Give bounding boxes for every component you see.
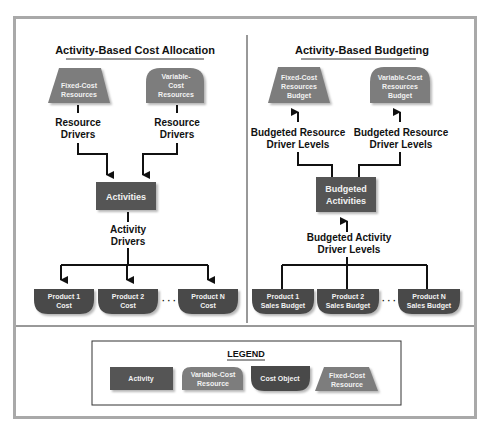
ellipsis: · · · (382, 296, 396, 306)
activity-drivers-label: Activity (110, 224, 147, 235)
legend-label: Fixed-Cost (329, 372, 366, 379)
node-label-line: Sales Budget (326, 302, 371, 310)
legend-item-variable-cost-resource: Variable-Cost Resource (182, 367, 243, 390)
product-1-sales-budget-node: Product 1 Sales Budget (252, 289, 314, 314)
node-label-line: Budget (287, 92, 312, 100)
node-label-line: Activities (326, 196, 366, 206)
budgeted-resource-driver-levels-left: Driver Levels (267, 139, 330, 150)
node-label-line: Product 2 (112, 293, 144, 300)
node-label-line: Budgeted (325, 184, 367, 194)
activities-node: Activities (96, 182, 156, 210)
budgeted-resource-driver-levels-right: Budgeted Resource (354, 127, 449, 138)
budgeted-resource-driver-levels-right: Driver Levels (370, 139, 433, 150)
legend-title: LEGEND (227, 349, 265, 359)
fixed-cost-resources-node: Fixed-Cost Resources (48, 68, 110, 103)
legend-label: Cost Object (260, 375, 300, 383)
variable-cost-resources-node: Variable- Cost Resources (146, 68, 204, 103)
product-n-cost-node: Product N Cost (178, 289, 238, 314)
legend-label: Resource (331, 381, 363, 388)
node-label-line: Cost (168, 82, 184, 89)
node-label-line: Cost (200, 302, 216, 309)
diagram-canvas: Activity-Based Cost Allocation Fixed-Cos… (0, 0, 496, 431)
node-label-line: Resources (61, 91, 97, 98)
node-label-line: Fixed-Cost (281, 74, 318, 81)
right-panel: Activity-Based Budgeting Fixed-Cost Reso… (251, 44, 460, 314)
arrow-to-activities (78, 143, 107, 175)
activity-drivers-label: Drivers (111, 236, 146, 247)
variable-cost-resources-budget-node: Variable-Cost Resources Budget (370, 67, 430, 103)
resource-drivers-label-left: Resource (55, 117, 101, 128)
node-label-line: Resources (382, 83, 418, 90)
node-label-line: Product N (412, 293, 445, 300)
node-label-line: Product 2 (332, 293, 364, 300)
product-1-cost-node: Product 1 Cost (34, 289, 94, 314)
node-label-line: Variable- (161, 73, 191, 80)
node-label-line: Resources (158, 91, 194, 98)
legend-item-cost-object: Cost Object (251, 366, 310, 391)
legend-label: Resource (197, 380, 229, 387)
node-label-line: Fixed-Cost (61, 82, 98, 89)
resource-drivers-label-right: Drivers (160, 129, 195, 140)
node-label-line: Cost (120, 302, 136, 309)
product-n-sales-budget-node: Product N Sales Budget (398, 289, 460, 314)
node-label-line: Budget (388, 92, 413, 100)
legend-item-activity: Activity (110, 367, 173, 390)
node-label-line: Resources (281, 83, 317, 90)
budgeted-activity-driver-levels: Budgeted Activity (307, 232, 392, 243)
budgeted-activities-node: Budgeted Activities (316, 177, 376, 212)
connector (298, 152, 332, 177)
legend-label: Activity (128, 375, 153, 383)
node-label-line: Product 1 (267, 293, 299, 300)
resource-drivers-label-left: Drivers (61, 129, 96, 140)
connector (359, 152, 400, 177)
product-2-cost-node: Product 2 Cost (98, 289, 158, 314)
ellipsis: · · · (162, 296, 176, 306)
legend-label: Variable-Cost (191, 371, 236, 378)
resource-drivers-label-right: Resource (154, 117, 200, 128)
node-label-line: Cost (56, 302, 72, 309)
right-panel-title: Activity-Based Budgeting (295, 44, 429, 56)
node-label-line: Product N (191, 293, 224, 300)
left-panel-title: Activity-Based Cost Allocation (55, 44, 215, 56)
arrow-to-activities (143, 143, 177, 175)
legend-item-fixed-cost-resource: Fixed-Cost Resource (315, 367, 378, 391)
legend: LEGEND Activity Variable-Cost Resource C… (92, 341, 401, 405)
activities-label: Activities (106, 192, 146, 202)
node-label-line: Variable-Cost (378, 74, 423, 81)
product-2-sales-budget-node: Product 2 Sales Budget (317, 289, 379, 314)
node-label-line: Product 1 (48, 293, 80, 300)
fixed-cost-resources-budget-node: Fixed-Cost Resources Budget (268, 67, 330, 103)
left-panel: Activity-Based Cost Allocation Fixed-Cos… (34, 44, 238, 314)
node-label-line: Sales Budget (261, 302, 306, 310)
budgeted-activity-driver-levels: Driver Levels (318, 244, 381, 255)
node-label-line: Sales Budget (407, 302, 452, 310)
budgeted-resource-driver-levels-left: Budgeted Resource (251, 127, 346, 138)
